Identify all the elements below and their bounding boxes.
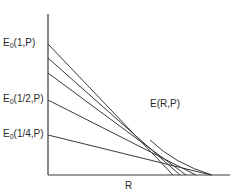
label-e0-quarter: E0(1/4,P) xyxy=(3,129,44,140)
label-e0-1: E0(1,P) xyxy=(3,38,35,49)
x-axis-label: R xyxy=(125,181,132,191)
envelope-curve xyxy=(150,140,212,175)
curve-label: E(R,P) xyxy=(150,99,180,109)
tangent-line-2 xyxy=(48,58,180,175)
label-e0-half: E0(1/2,P) xyxy=(3,94,44,105)
reliability-exponent-diagram: E0(1,P) E0(1/2,P) E0(1/4,P) E(R,P) R xyxy=(0,0,239,194)
tangent-line-4 xyxy=(48,100,196,175)
